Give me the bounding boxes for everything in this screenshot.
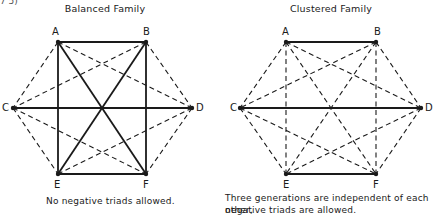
- node-label-a-balanced: A: [52, 27, 59, 37]
- node-c: [238, 106, 242, 110]
- node-b: [144, 40, 148, 44]
- dashed-edge-CE: [240, 108, 286, 174]
- node-label-d-clustered: D: [425, 103, 433, 113]
- dashed-edge-DF: [146, 108, 192, 174]
- dashed-edge-CE: [13, 108, 58, 174]
- dashed-edge-DF: [376, 108, 421, 174]
- node-label-e-balanced: E: [54, 180, 60, 190]
- node-d: [419, 106, 423, 110]
- node-label-d-balanced: D: [196, 103, 204, 113]
- node-label-c-clustered: C: [230, 103, 237, 113]
- dashed-edge-BD: [146, 42, 192, 108]
- balanced-family-caption: No negative triads allowed.: [46, 195, 175, 207]
- dashed-edge-BC: [240, 42, 376, 108]
- balanced-graph: [11, 40, 194, 176]
- node-a: [284, 40, 288, 44]
- balanced-family-title: Balanced Family: [10, 3, 200, 14]
- node-label-b-clustered: B: [374, 27, 381, 37]
- node-b: [374, 40, 378, 44]
- clustered-family-caption-line2: negative triads are allowed.: [225, 204, 356, 216]
- dashed-edge-AD: [286, 42, 421, 108]
- node-label-a-clustered: A: [282, 27, 289, 37]
- dashed-edge-AC: [13, 42, 58, 108]
- clustered-family-title: Clustered Family: [236, 3, 426, 14]
- node-label-b-balanced: B: [143, 27, 150, 37]
- node-f: [374, 172, 378, 176]
- node-e: [284, 172, 288, 176]
- node-label-f-balanced: F: [143, 180, 149, 190]
- node-c: [11, 106, 15, 110]
- node-e: [56, 172, 60, 176]
- node-label-e-clustered: E: [283, 180, 289, 190]
- node-a: [56, 40, 60, 44]
- node-d: [190, 106, 194, 110]
- dashed-edge-BD: [376, 42, 421, 108]
- dashed-edge-AC: [240, 42, 286, 108]
- node-f: [144, 172, 148, 176]
- clustered-graph: [238, 40, 423, 176]
- node-label-c-balanced: C: [2, 103, 9, 113]
- node-label-f-clustered: F: [373, 180, 379, 190]
